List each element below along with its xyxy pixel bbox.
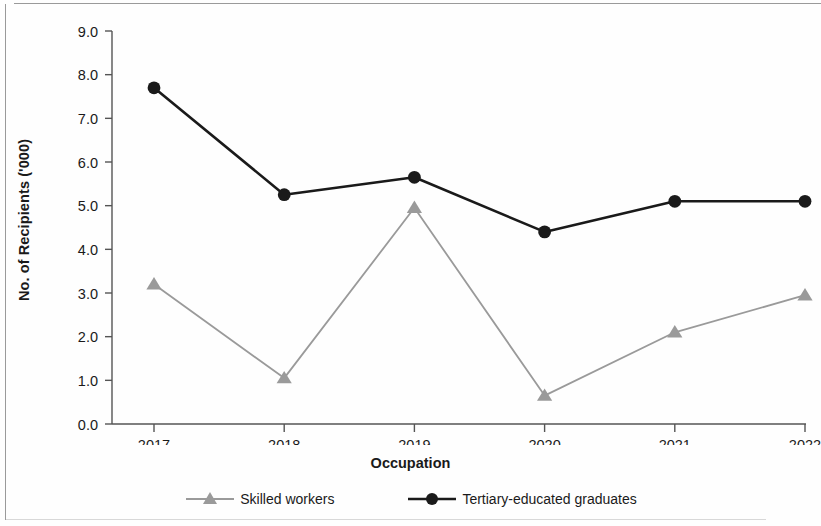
y-axis-title: No. of Recipients ('000) [6, 0, 42, 440]
y-axis-tick-labels: 0.01.02.03.04.05.06.07.08.09.0 [78, 24, 98, 433]
y-axis-title-text: No. of Recipients ('000) [16, 139, 32, 301]
data-point-marker [408, 171, 421, 184]
series-line [154, 208, 805, 396]
data-point-marker [668, 195, 681, 208]
y-axis-tick-label: 0.0 [78, 417, 98, 433]
data-point-marker [799, 195, 812, 208]
series-line [154, 88, 805, 232]
x-axis-tick-label: 2021 [659, 437, 691, 445]
legend-label: Tertiary-educated graduates [462, 491, 636, 507]
data-point-marker [797, 288, 812, 300]
legend-item[interactable]: Tertiary-educated graduates [406, 490, 636, 508]
x-axis-tick-label: 2022 [789, 437, 821, 445]
line-chart-plot: 0.01.02.03.04.05.06.07.08.09.0 201720182… [0, 0, 821, 445]
y-axis-tick-label: 7.0 [78, 111, 98, 127]
legend-label: Skilled workers [240, 491, 334, 507]
data-point-marker [537, 388, 552, 400]
data-series [146, 201, 812, 401]
data-point-marker [277, 371, 292, 383]
legend-item[interactable]: Skilled workers [184, 490, 334, 508]
data-point-marker [278, 188, 291, 201]
data-point-marker [407, 201, 422, 213]
data-point-marker [146, 277, 161, 290]
x-axis-title: Occupation [0, 455, 821, 471]
y-axis-tick-marks [105, 31, 112, 424]
y-axis-tick-label: 9.0 [78, 24, 98, 40]
x-axis-tick-label: 2019 [398, 437, 430, 445]
legend-triangle-marker-icon [184, 490, 236, 508]
data-series [148, 81, 812, 238]
x-axis-tick-label: 2018 [268, 437, 300, 445]
y-axis-tick-label: 1.0 [78, 373, 98, 389]
page-frame-bottom-rule [6, 519, 766, 520]
y-axis-tick-label: 3.0 [78, 286, 98, 302]
chart-legend: Skilled workersTertiary-educated graduat… [0, 490, 821, 508]
y-axis-tick-label: 6.0 [78, 155, 98, 171]
x-axis-tick-labels: 201720182019202020212022 [138, 437, 821, 445]
y-axis-tick-label: 8.0 [78, 67, 98, 83]
y-axis-tick-label: 4.0 [78, 242, 98, 258]
y-axis-tick-label: 5.0 [78, 198, 98, 214]
y-axis-tick-label: 2.0 [78, 329, 98, 345]
x-axis-tick-label: 2017 [138, 437, 170, 445]
chart-figure: 0.01.02.03.04.05.06.07.08.09.0 201720182… [0, 0, 821, 526]
data-point-marker [538, 226, 551, 239]
legend-circle-marker-icon [406, 490, 458, 508]
data-series-layer [146, 81, 812, 400]
x-axis-tick-label: 2020 [528, 437, 560, 445]
x-axis-tick-marks [154, 424, 805, 432]
data-point-marker [148, 81, 161, 94]
